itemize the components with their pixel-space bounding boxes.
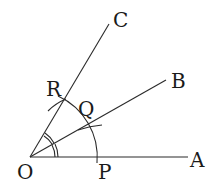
angle-mark-AOB-inner [52,145,55,157]
angle-mark-BOC-inner [44,136,52,144]
label-A: A [189,148,205,172]
label-B: B [171,69,186,93]
ray-OC [30,24,109,157]
geometry-diagram: C B A R Q O P [0,0,214,196]
label-C: C [113,8,128,32]
label-P: P [98,160,111,184]
label-O: O [17,160,33,184]
label-Q: Q [78,97,94,121]
label-R: R [46,77,62,101]
